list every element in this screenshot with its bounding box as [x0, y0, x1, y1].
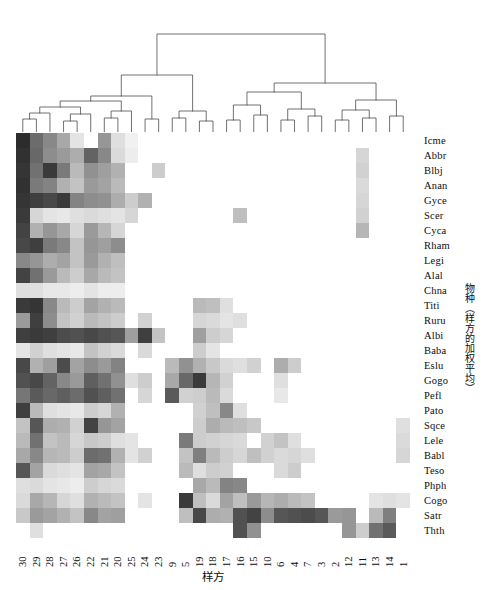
heatmap-cell	[43, 238, 57, 253]
heatmap-cell	[98, 283, 112, 298]
heatmap-cell	[328, 148, 342, 163]
heatmap-cell	[193, 283, 207, 298]
heatmap-cell	[396, 493, 410, 508]
heatmap-cell	[220, 388, 234, 403]
heatmap-cell	[396, 313, 410, 328]
heatmap-cell	[125, 373, 139, 388]
heatmap-cell	[84, 373, 98, 388]
heatmap-cell	[274, 523, 288, 538]
heatmap-cell	[70, 268, 84, 283]
heatmap-cell	[274, 313, 288, 328]
heatmap-cell	[233, 133, 247, 148]
heatmap-cell	[301, 493, 315, 508]
heatmap-cell	[342, 418, 356, 433]
heatmap-cell	[165, 163, 179, 178]
heatmap-cell	[84, 178, 98, 193]
column-label: 1	[397, 541, 411, 567]
heatmap-cell	[179, 343, 193, 358]
heatmap-cell	[111, 478, 125, 493]
heatmap-cell	[84, 493, 98, 508]
heatmap-cell	[138, 523, 152, 538]
heatmap-cell	[301, 433, 315, 448]
heatmap-cell	[315, 478, 329, 493]
row-label: Gyce	[424, 193, 470, 208]
heatmap-cell	[70, 463, 84, 478]
heatmap-cell	[179, 508, 193, 523]
heatmap-cell	[57, 388, 71, 403]
heatmap-cell	[233, 478, 247, 493]
heatmap-cell	[206, 268, 220, 283]
heatmap-cell	[193, 268, 207, 283]
heatmap-cell	[274, 493, 288, 508]
heatmap-cell	[220, 133, 234, 148]
heatmap-cell	[206, 253, 220, 268]
heatmap-cell	[16, 358, 30, 373]
heatmap-cell	[57, 403, 71, 418]
dendrogram-link	[157, 34, 325, 83]
heatmap-cell	[356, 493, 370, 508]
heatmap-cell	[70, 283, 84, 298]
heatmap-cell	[342, 313, 356, 328]
heatmap-cell	[288, 178, 302, 193]
heatmap-cell	[206, 133, 220, 148]
heatmap-cell	[261, 163, 275, 178]
heatmap-cell	[125, 283, 139, 298]
heatmap-cell	[16, 448, 30, 463]
heatmap-cell	[369, 163, 383, 178]
heatmap-cell	[152, 388, 166, 403]
heatmap-cell	[98, 418, 112, 433]
heatmap-cell	[125, 343, 139, 358]
heatmap-cell	[356, 298, 370, 313]
heatmap-cell	[356, 388, 370, 403]
heatmap-cell	[125, 448, 139, 463]
heatmap-cell	[328, 208, 342, 223]
heatmap-cell	[206, 418, 220, 433]
heatmap-cell	[247, 463, 261, 478]
heatmap-cell	[16, 223, 30, 238]
heatmap-cell	[30, 418, 44, 433]
heatmap-cell	[233, 463, 247, 478]
heatmap-cell	[111, 373, 125, 388]
heatmap-cell	[152, 523, 166, 538]
heatmap-cell	[98, 178, 112, 193]
heatmap-cell	[261, 388, 275, 403]
heatmap-cell	[43, 373, 57, 388]
heatmap-cell	[165, 493, 179, 508]
heatmap-cell	[70, 433, 84, 448]
heatmap-cell	[288, 493, 302, 508]
heatmap-cell	[57, 313, 71, 328]
heatmap-cell	[193, 193, 207, 208]
heatmap-cell	[288, 388, 302, 403]
heatmap-cell	[369, 148, 383, 163]
x-axis-title: 样方	[0, 568, 426, 584]
heatmap-cell	[111, 193, 125, 208]
heatmap-cell	[125, 223, 139, 238]
heatmap-cell	[233, 388, 247, 403]
heatmap-cell	[261, 328, 275, 343]
dendrogram-link	[390, 116, 404, 132]
heatmap-cell	[369, 388, 383, 403]
column-label: 7	[301, 541, 315, 567]
heatmap-cell	[220, 253, 234, 268]
heatmap-cell	[315, 148, 329, 163]
heatmap-cell	[261, 463, 275, 478]
heatmap-cell	[206, 298, 220, 313]
heatmap-cell	[30, 328, 44, 343]
heatmap-cell	[179, 493, 193, 508]
heatmap-cell	[125, 418, 139, 433]
row-label: Abbr	[424, 148, 470, 163]
heatmap-cell	[315, 433, 329, 448]
dendrogram-links	[23, 34, 403, 132]
heatmap-cell	[315, 493, 329, 508]
heatmap-cell	[30, 508, 44, 523]
heatmap-cell	[165, 268, 179, 283]
heatmap-cell	[98, 493, 112, 508]
heatmap-cell	[30, 448, 44, 463]
heatmap-cell	[342, 448, 356, 463]
heatmap-cell	[111, 403, 125, 418]
heatmap-cell	[233, 193, 247, 208]
heatmap-cell	[165, 178, 179, 193]
heatmap-cell	[301, 268, 315, 283]
heatmap-cell	[233, 493, 247, 508]
heatmap-cell	[315, 358, 329, 373]
